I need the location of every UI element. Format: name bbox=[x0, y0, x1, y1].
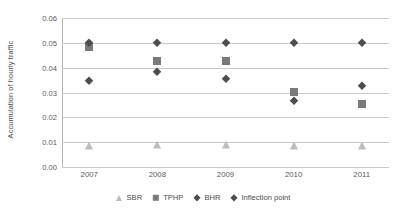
gridline-0.06 bbox=[62, 18, 389, 19]
y-tick-label: 0.00 bbox=[5, 163, 57, 172]
data-point-bhr bbox=[153, 38, 162, 47]
data-point-sbr bbox=[153, 141, 161, 149]
square-icon bbox=[151, 193, 160, 202]
x-tick-label: 2009 bbox=[217, 170, 234, 179]
legend-item-sbr[interactable]: SBR bbox=[115, 193, 143, 202]
legend-label: BHR bbox=[204, 193, 220, 202]
data-point-sbr bbox=[358, 142, 366, 150]
gridline-0.00 bbox=[62, 167, 389, 168]
triangle-icon bbox=[115, 193, 124, 202]
data-point-sbr bbox=[85, 141, 93, 149]
data-point-bhr bbox=[221, 38, 230, 47]
plot-area bbox=[62, 18, 389, 167]
x-tick-label: 2007 bbox=[81, 170, 98, 179]
gridline-0.02 bbox=[62, 117, 389, 118]
y-axis-tick-labels: 0.000.010.020.030.040.050.06 bbox=[0, 18, 57, 167]
y-tick-label: 0.02 bbox=[5, 113, 57, 122]
y-tick-label: 0.03 bbox=[5, 88, 57, 97]
legend-item-inflection-point[interactable]: Inflection point bbox=[229, 193, 290, 202]
y-tick-label: 0.01 bbox=[5, 138, 57, 147]
legend-marker-shape bbox=[116, 195, 122, 201]
diamond-icon bbox=[192, 193, 201, 202]
data-point-tphp bbox=[222, 57, 230, 65]
data-point-inflection-point bbox=[357, 81, 366, 90]
data-point-inflection-point bbox=[289, 97, 298, 106]
data-point-bhr bbox=[289, 38, 298, 47]
y-tick-label: 0.06 bbox=[5, 14, 57, 23]
chart-figure: Accumulation of hourly traffic 0.000.010… bbox=[0, 0, 405, 220]
data-point-tphp bbox=[358, 100, 366, 108]
legend-marker-shape bbox=[152, 194, 158, 200]
y-tick-label: 0.05 bbox=[5, 38, 57, 47]
y-tick-label: 0.04 bbox=[5, 63, 57, 72]
x-axis-tick-labels: 20072008200920102011 bbox=[62, 170, 389, 184]
data-point-inflection-point bbox=[153, 67, 162, 76]
legend-item-tphp[interactable]: TPHP bbox=[151, 193, 183, 202]
x-tick-label: 2008 bbox=[149, 170, 166, 179]
legend-label: SBR bbox=[127, 193, 143, 202]
gridline-0.04 bbox=[62, 68, 389, 69]
chart-legend: SBRTPHPBHRInflection point bbox=[0, 193, 405, 202]
data-point-tphp bbox=[153, 57, 161, 65]
legend-label: TPHP bbox=[163, 193, 183, 202]
legend-item-bhr[interactable]: BHR bbox=[192, 193, 220, 202]
data-point-bhr bbox=[357, 38, 366, 47]
data-point-inflection-point bbox=[85, 76, 94, 85]
legend-label: Inflection point bbox=[241, 193, 290, 202]
data-point-sbr bbox=[290, 142, 298, 150]
gridline-0.03 bbox=[62, 93, 389, 94]
diamond-icon bbox=[229, 193, 238, 202]
x-tick-label: 2010 bbox=[285, 170, 302, 179]
x-tick-label: 2011 bbox=[353, 170, 370, 179]
data-point-sbr bbox=[222, 141, 230, 149]
data-point-tphp bbox=[290, 88, 298, 96]
legend-marker-shape bbox=[230, 194, 237, 201]
data-point-inflection-point bbox=[221, 74, 230, 83]
legend-marker-shape bbox=[193, 194, 200, 201]
